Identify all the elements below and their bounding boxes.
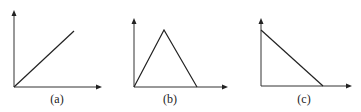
x-axis-arrow-icon — [346, 84, 352, 89]
increasing-line-curve — [14, 31, 74, 87]
panel-label: (a) — [50, 92, 63, 106]
y-axis-arrow-icon — [259, 18, 264, 24]
decreasing-line-curve — [261, 30, 323, 86]
y-axis-arrow-icon — [132, 18, 137, 24]
diagram-figure: (a)(b)(c) — [0, 0, 361, 112]
panel-a: (a) — [12, 10, 103, 106]
y-axis-arrow-icon — [12, 10, 17, 16]
triangle-curve — [134, 30, 197, 87]
panel-label: (c) — [297, 92, 310, 106]
panel-label: (b) — [163, 92, 177, 106]
x-axis-arrow-icon — [96, 85, 102, 90]
panel-c: (c) — [259, 18, 353, 106]
panel-b: (b) — [132, 18, 229, 106]
x-axis-arrow-icon — [222, 85, 228, 90]
